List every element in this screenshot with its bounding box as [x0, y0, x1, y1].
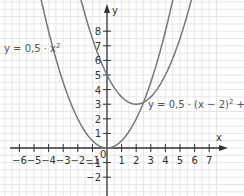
svg-text:7: 7: [95, 41, 101, 52]
origin-label: 0: [100, 149, 106, 160]
x-axis-label: x: [216, 132, 222, 143]
svg-text:3: 3: [148, 155, 154, 166]
svg-text:1: 1: [95, 128, 101, 139]
curve1-label: y = 0,5 · x2: [4, 42, 60, 54]
svg-text:−6: −6: [12, 155, 27, 166]
svg-text:1: 1: [118, 155, 124, 166]
svg-text:−1: −1: [86, 158, 101, 169]
svg-text:2: 2: [133, 155, 139, 166]
curve2-label: y = 0,5 · (x − 2)2 + 3: [148, 98, 244, 110]
y-axis-arrow-icon: [104, 4, 110, 13]
svg-text:3: 3: [95, 99, 101, 110]
svg-text:4: 4: [162, 155, 168, 166]
svg-text:−3: −3: [56, 155, 71, 166]
svg-text:−2: −2: [70, 155, 85, 166]
svg-text:5: 5: [177, 155, 183, 166]
svg-text:4: 4: [95, 85, 101, 96]
y-axis-label: y: [112, 5, 118, 16]
svg-text:−2: −2: [86, 172, 101, 183]
svg-text:8: 8: [95, 26, 101, 37]
svg-text:2: 2: [95, 114, 101, 125]
parabola-chart: −6−5−4−3−2−1123456787654321−1−2 y = 0,5 …: [0, 0, 244, 196]
x-axis-arrow-icon: [219, 145, 228, 151]
svg-text:6: 6: [95, 55, 101, 66]
svg-text:5: 5: [95, 70, 101, 81]
svg-text:6: 6: [191, 155, 197, 166]
svg-text:7: 7: [206, 155, 212, 166]
svg-text:−5: −5: [27, 155, 42, 166]
svg-text:−4: −4: [41, 155, 56, 166]
